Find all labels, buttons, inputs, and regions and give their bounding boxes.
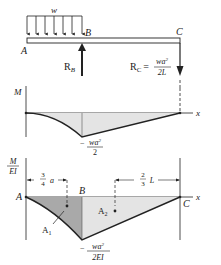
svg-text:4: 4 (41, 180, 45, 188)
svg-text:3: 3 (41, 171, 45, 179)
curvature-point-b: B (79, 185, 85, 196)
area-a1-region (26, 197, 82, 240)
svg-text:3: 3 (141, 180, 145, 188)
svg-text:L: L (149, 176, 155, 185)
distributed-load: w (27, 5, 82, 34)
curvature-y-label-num: M (9, 157, 18, 166)
curvature-min-denominator: 2EI (92, 253, 104, 262)
moment-y-label: M (13, 87, 22, 97)
moment-diagram: M x − wa2 2 (13, 86, 200, 157)
moment-x-label: x (195, 108, 200, 118)
curvature-diagram: M EI x A B C 3 4 a 2 3 L (7, 157, 200, 262)
curvature-x-label: x (195, 192, 200, 202)
curvature-point-c: C (183, 198, 190, 209)
svg-text:a: a (50, 176, 54, 185)
svg-text:2: 2 (141, 171, 145, 179)
centroid-a1 (66, 205, 69, 208)
load-label: w (51, 5, 57, 15)
curvature-point-a: A (15, 191, 23, 202)
curvature-min-numerator: wa2 (92, 242, 104, 251)
moment-min-numerator: wa2 (89, 138, 101, 147)
beam-diagram-figure: w A B C RB RC= wa2 2L (0, 0, 221, 265)
beam-section: w A B C RB RC= wa2 2L (20, 5, 184, 88)
beam-point-b: B (85, 27, 91, 38)
reaction-b-arrow: RB (64, 43, 86, 76)
area-a1-label: A1 (42, 225, 52, 236)
moment-min-sign: − (80, 139, 85, 148)
reaction-c-arrow: RC= wa2 2L (130, 43, 184, 88)
beam-point-c: C (176, 26, 183, 37)
reaction-c-denominator: 2L (158, 68, 167, 77)
curvature-y-label-den: EI (8, 167, 17, 176)
beam-point-a: A (20, 45, 28, 56)
beam-body (27, 38, 180, 43)
curvature-min-sign: − (80, 244, 85, 253)
reaction-b-label: RB (64, 61, 76, 74)
reaction-c-label: RC= (130, 61, 149, 74)
moment-min-denominator: 2 (93, 148, 97, 157)
centroid-a2 (114, 210, 117, 213)
reaction-c-numerator: wa2 (156, 57, 168, 66)
